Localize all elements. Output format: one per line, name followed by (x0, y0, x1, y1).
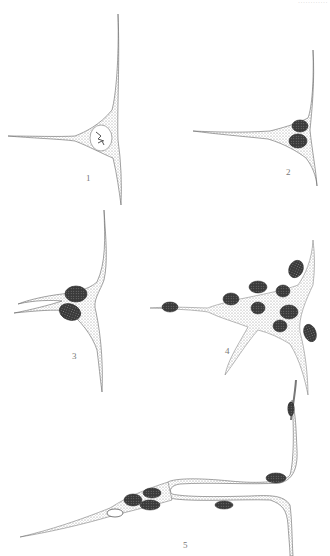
figure-3-cell (14, 210, 106, 392)
figure-4-label: 4 (225, 347, 230, 356)
figure-3-label: 3 (72, 352, 77, 361)
figure-2-label: 2 (286, 168, 291, 177)
figure-1-label: 1 (86, 174, 91, 183)
figure-1-nucleus (90, 125, 112, 151)
figure-4-cell (150, 240, 319, 420)
figure-5-label: 5 (183, 541, 188, 550)
figure-2-cell (193, 50, 317, 186)
figure-2-nucleus-bottom (289, 134, 307, 148)
cell-drawings (0, 0, 330, 556)
figure-1-cell (8, 14, 121, 205)
figure-5-cell (20, 400, 297, 556)
figure-3-nucleus-top (65, 286, 87, 302)
figure-2-nucleus-top (292, 120, 308, 132)
illustration-plate: ············ (0, 0, 330, 556)
